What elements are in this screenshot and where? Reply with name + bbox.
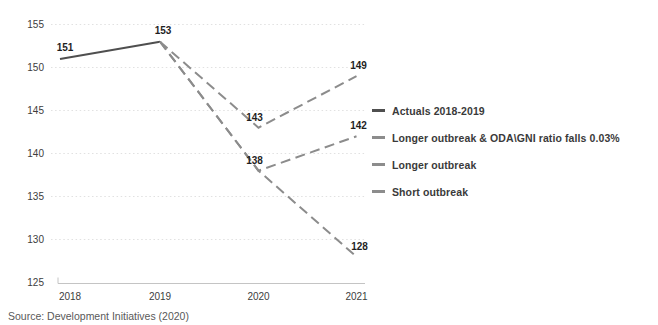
series-line-longer-outbreak-oda-gni-ratio-falls-0-03 [160,42,357,257]
data-label: 128 [351,241,368,252]
legend-line-marker [372,109,385,112]
data-label: 143 [246,112,263,123]
legend-item-short-outbreak: Short outbreak [372,178,620,205]
chart-figure: 1551501451401351301252018201920202021151… [0,0,658,325]
legend: Actuals 2018-2019Longer outbreak & ODA\G… [372,97,620,205]
legend-label: Longer outbreak & ODA\GNI ratio falls 0.… [392,132,620,144]
legend-label: Longer outbreak [392,159,476,171]
y-axis-tick-label: 155 [27,19,44,30]
data-label: 138 [246,155,263,166]
series-line-longer-outbreak [160,42,357,171]
legend-line-marker [372,136,385,139]
source-note: Source: Development Initiatives (2020) [8,310,189,322]
y-axis-tick-label: 135 [27,191,44,202]
legend-label: Actuals 2018-2019 [392,105,485,117]
y-axis-tick-label: 145 [27,105,44,116]
series-line-actuals-2018-2019 [60,42,160,59]
x-axis-tick-label: 2018 [59,291,82,302]
data-label: 151 [57,42,74,53]
y-axis-tick-label: 125 [27,277,44,288]
legend-item-longer-outbreak-oda-gni-ratio-falls-0-03: Longer outbreak & ODA\GNI ratio falls 0.… [372,124,620,151]
x-axis-tick-label: 2020 [247,291,270,302]
y-axis-tick-label: 140 [27,148,44,159]
data-label: 142 [350,120,367,131]
legend-label: Short outbreak [392,186,468,198]
legend-line-marker [372,163,385,166]
data-label: 149 [350,60,367,71]
legend-line-marker [372,190,385,193]
x-axis-tick-label: 2019 [149,291,172,302]
x-axis-tick-label: 2021 [345,291,368,302]
legend-item-actuals-2018-2019: Actuals 2018-2019 [372,97,620,124]
y-axis-tick-label: 150 [27,62,44,73]
y-axis-tick-label: 130 [27,234,44,245]
legend-item-longer-outbreak: Longer outbreak [372,151,620,178]
data-label: 153 [155,25,172,36]
